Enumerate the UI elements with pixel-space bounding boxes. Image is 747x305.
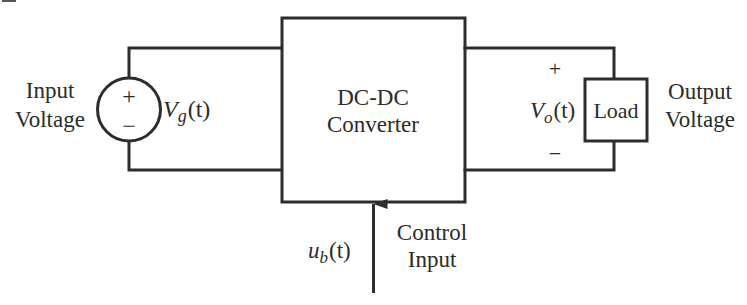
vo-sub: o — [544, 108, 553, 127]
output-plus-sign: + — [549, 56, 561, 81]
vg-sub: g — [178, 106, 187, 126]
vg-symbol: Vg(t) — [163, 96, 210, 126]
output-voltage-label-line1: Output — [668, 79, 733, 104]
output-voltage-label-line2: Voltage — [665, 107, 735, 132]
source-plus-sign: + — [122, 83, 136, 109]
control-input-label-line1: Control — [397, 220, 467, 245]
control-input-label-line2: Input — [408, 247, 457, 272]
source-minus-sign: − — [122, 113, 136, 139]
converter-label-line1: DC-DC — [337, 85, 409, 110]
converter-label-line2: Converter — [327, 112, 419, 137]
input-voltage-label-line1: Input — [26, 78, 75, 103]
vo-symbol: Vo(t) — [530, 98, 575, 127]
voltage-source-icon: + − — [98, 78, 161, 141]
vg-arg: (t) — [188, 96, 211, 122]
input-voltage-label-line2: Voltage — [15, 107, 85, 132]
dc-dc-converter-diagram: + − Input Voltage Vg(t) DC-DC Converter … — [0, 0, 747, 305]
ub-symbol: ub(t) — [308, 238, 351, 267]
ub-sub: b — [320, 248, 329, 267]
converter-block — [282, 18, 465, 202]
cropped-artifact — [2, 0, 16, 2]
load-label: Load — [593, 98, 638, 123]
output-minus-sign: − — [549, 141, 561, 166]
vo-arg: (t) — [554, 98, 576, 123]
ub-arg: (t) — [329, 238, 351, 263]
ub-main: u — [308, 238, 320, 263]
